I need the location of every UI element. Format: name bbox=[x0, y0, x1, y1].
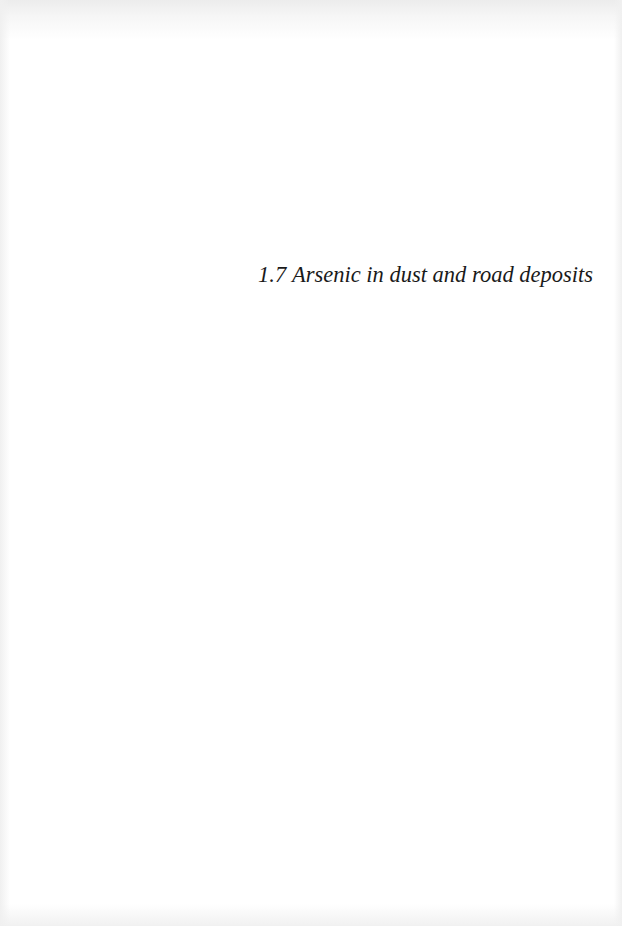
scan-shadow-top bbox=[0, 0, 622, 40]
section-title: Arsenic in dust and road deposits bbox=[292, 262, 593, 287]
scan-shadow-left bbox=[0, 0, 10, 926]
scan-shadow-bottom bbox=[0, 904, 622, 926]
section-number: 1.7 bbox=[258, 264, 292, 287]
section-heading: 1.7Arsenic in dust and road deposits bbox=[258, 264, 593, 287]
scan-shadow-right bbox=[614, 0, 622, 926]
